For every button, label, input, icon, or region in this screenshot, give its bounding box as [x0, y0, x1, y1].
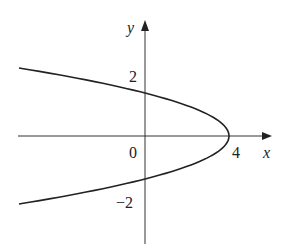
- y-axis-label: y: [127, 20, 134, 36]
- origin-label: 0: [129, 145, 137, 161]
- x-tick-label-4: 4: [232, 145, 240, 161]
- y-tick-label-2: 2: [129, 69, 137, 85]
- chart-canvas: [0, 0, 290, 252]
- x-axis-label: x: [263, 145, 270, 161]
- y-axis-arrow-icon: [141, 20, 149, 31]
- y-tick-label-neg2: −2: [116, 195, 133, 211]
- x-axis-arrow-icon: [262, 132, 272, 140]
